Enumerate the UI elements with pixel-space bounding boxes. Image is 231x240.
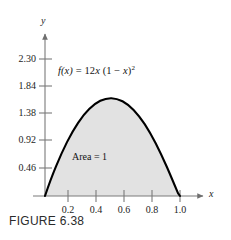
function-equals-text: = 12 [73,65,95,76]
figure-container: 2.30 1.84 1.38 0.92 0.46 0.2 0.4 0.6 0.8… [0,0,231,240]
x-axis-label: x [209,189,213,199]
y-tick-label-1.84: 1.84 [10,81,36,91]
area-annotation-label: Area = 1 [72,152,107,162]
y-axis-label: y [41,16,45,26]
function-paren-open-text: (1 − [100,65,123,76]
figure-caption: FIGURE 6.38 [9,215,84,227]
x-tick-label-0.4: 0.4 [85,205,107,215]
y-tick-label-0.92: 0.92 [10,135,36,145]
y-tick-label-0.46: 0.46 [10,163,36,173]
function-equation-label: f(x) = 12x (1 − x)2 [58,66,135,77]
x-tick-label-0.6: 0.6 [113,205,135,215]
y-tick-label-1.38: 1.38 [10,108,36,118]
x-tick-label-1.0: 1.0 [169,205,191,215]
function-exponent-text: 2 [131,64,135,72]
y-tick-label-2.30: 2.30 [10,54,36,64]
plot-svg [0,0,231,240]
x-tick-label-0.8: 0.8 [141,205,163,215]
function-fx-text: f(x) [58,65,73,76]
